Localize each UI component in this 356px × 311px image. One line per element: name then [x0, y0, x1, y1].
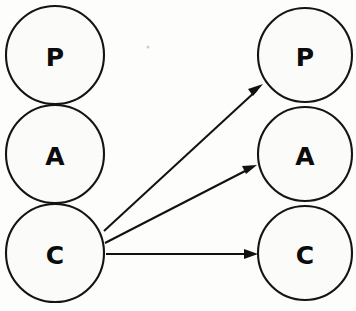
edge-c-to-p-arrowhead: [248, 84, 263, 96]
node-right-c-label: C: [296, 241, 314, 270]
node-left-a[interactable]: A: [6, 105, 104, 203]
node-right-p-label: P: [296, 43, 314, 72]
edge-c-to-a-arrowhead: [242, 165, 257, 174]
node-left-c-label: C: [46, 241, 64, 270]
edge-c-to-a[interactable]: [105, 165, 257, 243]
node-right-p[interactable]: P: [258, 8, 352, 102]
edge-c-to-p[interactable]: [104, 84, 263, 231]
edges: [104, 84, 263, 259]
node-right-a[interactable]: A: [258, 107, 352, 201]
node-right-a-label: A: [295, 142, 315, 171]
edge-c-to-a-line[interactable]: [105, 169, 249, 243]
edge-c-to-c[interactable]: [106, 249, 258, 259]
node-right-c[interactable]: C: [258, 206, 352, 300]
edge-c-to-c-arrowhead: [244, 249, 258, 259]
right-column: P A C: [258, 8, 352, 300]
node-left-a-label: A: [45, 142, 65, 171]
edge-c-to-p-line[interactable]: [104, 90, 257, 231]
node-left-p-label: P: [46, 43, 64, 72]
scan-speck: [146, 45, 149, 48]
diagram-svg: P A C P A C: [0, 0, 356, 311]
node-left-c[interactable]: C: [6, 204, 104, 302]
node-left-p[interactable]: P: [6, 6, 104, 104]
left-column: P A C: [6, 6, 104, 302]
diagram-canvas: P A C P A C: [0, 0, 356, 311]
